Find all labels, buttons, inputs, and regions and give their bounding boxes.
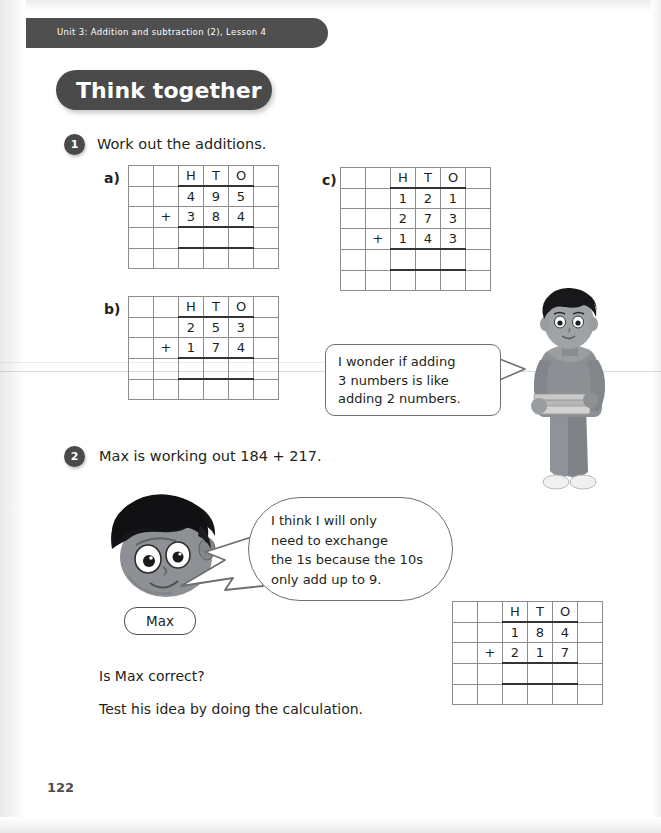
grid-cell[interactable]	[366, 188, 391, 209]
hto-grid-question2[interactable]: H T O 1 8 4 + 2 1 7	[452, 601, 603, 705]
digit-t: 7	[204, 338, 229, 359]
answer-cell-t[interactable]	[204, 227, 229, 248]
answer-cell-o[interactable]	[229, 227, 254, 248]
grid-cell[interactable]	[366, 270, 391, 291]
grid-cell[interactable]	[154, 297, 179, 318]
grid-cell[interactable]	[254, 186, 279, 207]
grid-cell[interactable]	[229, 248, 254, 269]
grid-row-addend-3: + 1 4 3	[341, 229, 491, 250]
grid-cell[interactable]	[341, 229, 366, 250]
grid-cell[interactable]	[366, 209, 391, 229]
grid-header-o: O	[553, 602, 578, 623]
grid-cell[interactable]	[466, 188, 491, 209]
grid-cell[interactable]	[179, 248, 204, 269]
digit-h: 1	[503, 622, 528, 643]
grid-cell[interactable]	[453, 602, 478, 623]
grid-cell[interactable]	[578, 663, 603, 684]
grid-cell[interactable]	[416, 270, 441, 291]
digit-h: 2	[503, 643, 528, 664]
grid-cell[interactable]	[229, 379, 254, 400]
grid-cell[interactable]	[254, 166, 279, 187]
grid-cell[interactable]	[578, 602, 603, 623]
grid-cell[interactable]	[341, 249, 366, 270]
grid-cell[interactable]	[341, 188, 366, 209]
grid-cell[interactable]	[478, 602, 503, 623]
grid-cell[interactable]	[254, 379, 279, 400]
grid-cell[interactable]	[528, 684, 553, 705]
grid-cell[interactable]	[179, 379, 204, 400]
grid-cell[interactable]	[453, 643, 478, 664]
grid-cell[interactable]	[341, 209, 366, 229]
digit-t: 4	[416, 229, 441, 250]
speech-bubble-girl: I wonder if adding 3 numbers is like add…	[325, 344, 501, 416]
digit-o: 3	[229, 317, 254, 338]
grid-cell[interactable]	[254, 207, 279, 228]
answer-cell-h[interactable]	[179, 227, 204, 248]
hto-grid-c[interactable]: H T O 1 2 1 2 7 3 + 1 4 3	[340, 167, 491, 291]
grid-cell[interactable]	[466, 270, 491, 291]
grid-cell[interactable]	[578, 643, 603, 664]
grid-cell[interactable]	[129, 317, 154, 338]
grid-cell[interactable]	[478, 622, 503, 643]
grid-cell[interactable]	[154, 227, 179, 248]
grid-cell[interactable]	[453, 663, 478, 684]
answer-cell-o[interactable]	[553, 663, 578, 684]
grid-cell[interactable]	[129, 186, 154, 207]
grid-cell[interactable]	[129, 338, 154, 359]
grid-cell[interactable]	[154, 186, 179, 207]
grid-cell[interactable]	[129, 227, 154, 248]
answer-cell-t[interactable]	[416, 249, 441, 270]
grid-cell[interactable]	[129, 207, 154, 228]
grid-cell[interactable]	[254, 248, 279, 269]
plus-sign: +	[478, 643, 503, 664]
grid-row-addend-1: 2 5 3	[129, 317, 279, 338]
grid-cell[interactable]	[366, 168, 391, 189]
grid-cell[interactable]	[129, 379, 154, 400]
grid-cell[interactable]	[254, 338, 279, 359]
grid-cell[interactable]	[441, 270, 466, 291]
hto-grid-b[interactable]: H T O 2 5 3 + 1 7 4	[128, 296, 279, 400]
grid-cell[interactable]	[466, 229, 491, 250]
grid-cell[interactable]	[129, 297, 154, 318]
digit-h: 1	[179, 338, 204, 359]
grid-cell[interactable]	[154, 248, 179, 269]
grid-cell[interactable]	[503, 684, 528, 705]
grid-row-answer	[453, 663, 603, 684]
grid-header-h: H	[391, 168, 416, 189]
digit-t: 7	[416, 209, 441, 229]
grid-cell[interactable]	[391, 270, 416, 291]
grid-cell[interactable]	[466, 209, 491, 229]
answer-cell-t[interactable]	[528, 663, 553, 684]
grid-cell[interactable]	[466, 168, 491, 189]
grid-cell[interactable]	[341, 270, 366, 291]
grid-cell[interactable]	[466, 249, 491, 270]
grid-header-t: T	[204, 166, 229, 187]
grid-cell[interactable]	[453, 684, 478, 705]
grid-cell[interactable]	[154, 379, 179, 400]
grid-cell[interactable]	[129, 166, 154, 187]
grid-cell[interactable]	[254, 317, 279, 338]
answer-cell-o[interactable]	[441, 249, 466, 270]
digit-h: 2	[391, 209, 416, 229]
hto-grid-a[interactable]: H T O 4 9 5 + 3 8 4	[128, 165, 279, 269]
grid-cell[interactable]	[478, 663, 503, 684]
grid-cell[interactable]	[154, 166, 179, 187]
grid-cell[interactable]	[553, 684, 578, 705]
grid-cell[interactable]	[254, 227, 279, 248]
grid-cell[interactable]	[478, 684, 503, 705]
grid-cell[interactable]	[578, 622, 603, 643]
answer-cell-h[interactable]	[503, 663, 528, 684]
grid-cell[interactable]	[453, 622, 478, 643]
question-1-badge: 1	[64, 134, 85, 155]
grid-cell[interactable]	[204, 379, 229, 400]
grid-cell[interactable]	[254, 297, 279, 318]
grid-cell[interactable]	[129, 248, 154, 269]
grid-header-t: T	[416, 168, 441, 189]
grid-cell[interactable]	[154, 317, 179, 338]
digit-t: 9	[204, 186, 229, 207]
grid-cell[interactable]	[366, 249, 391, 270]
answer-cell-h[interactable]	[391, 249, 416, 270]
grid-cell[interactable]	[204, 248, 229, 269]
grid-cell[interactable]	[341, 168, 366, 189]
grid-cell[interactable]	[578, 684, 603, 705]
